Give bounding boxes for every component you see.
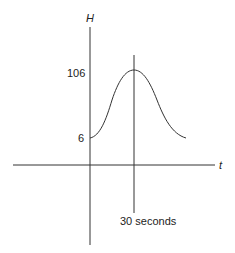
graph: H 106 6 t 30 seconds	[0, 0, 235, 253]
max-value-label: 106	[67, 67, 85, 79]
bell-curve	[90, 70, 186, 138]
y-axis-label: H	[86, 12, 94, 24]
peak-time-label: 30 seconds	[120, 215, 177, 227]
x-axis-label: t	[219, 159, 223, 171]
min-value-label: 6	[78, 132, 84, 144]
